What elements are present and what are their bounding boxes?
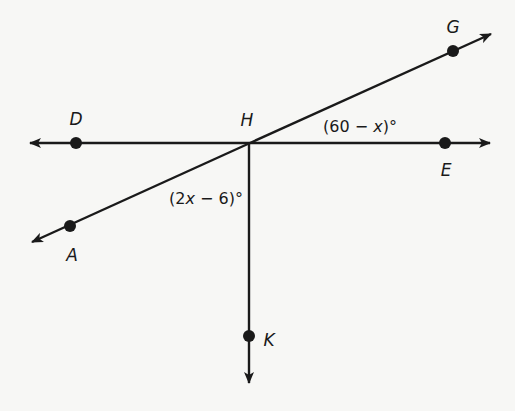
angle-GHE-variable: x <box>373 117 382 136</box>
angle-label-AHK: (2x − 6)° <box>169 191 243 207</box>
angle-label-GHE: (60 − x)° <box>323 119 397 135</box>
point-E <box>439 137 451 149</box>
label-K: K <box>263 332 274 349</box>
label-D: D <box>69 111 82 128</box>
angle-AHK-variable: x <box>185 189 194 208</box>
label-E: E <box>441 162 452 179</box>
angle-GHE-prefix: (60 − <box>323 117 373 136</box>
label-G: G <box>446 19 459 36</box>
point-G <box>447 45 459 57</box>
point-K <box>243 330 255 342</box>
point-D <box>70 137 82 149</box>
point-A <box>64 220 76 232</box>
geometry-diagram: D H E G A K (60 − x)° (2x − 6)° <box>0 0 515 411</box>
label-A: A <box>66 247 78 264</box>
diagram-lines <box>0 0 515 411</box>
angle-AHK-prefix: (2 <box>169 189 185 208</box>
angle-GHE-suffix: )° <box>383 117 397 136</box>
label-H: H <box>241 112 254 129</box>
angle-AHK-suffix: − 6)° <box>195 189 243 208</box>
